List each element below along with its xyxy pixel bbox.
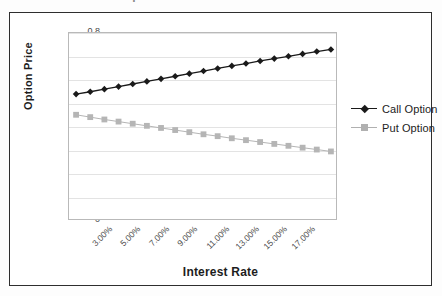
legend-item[interactable]: Call Option [351, 99, 438, 118]
x-axis-tick-label: 9.00% [175, 224, 199, 248]
y-axis-title: Option Price [22, 6, 34, 146]
series-put-option [73, 112, 334, 154]
chart-title-clipped: Option Prices versus Interest Rate [0, 0, 442, 11]
series-call-option [73, 46, 334, 97]
x-axis-tick-label: 5.00% [118, 224, 142, 248]
diamond-marker-icon [351, 103, 377, 114]
legend-item[interactable]: Put Option [351, 118, 438, 137]
data-series-layer [69, 33, 338, 221]
legend-item-label: Put Option [382, 122, 435, 134]
x-axis-tick-label: 13.00% [233, 224, 260, 251]
x-axis-tick-label: 15.00% [261, 224, 288, 251]
chart-legend: Call OptionPut Option [351, 99, 438, 137]
x-axis-tick-label: 11.00% [205, 224, 232, 251]
x-axis-tick-label: 3.00% [90, 224, 114, 248]
legend-item-label: Call Option [382, 103, 438, 115]
plot-area [68, 32, 337, 220]
chart-area: Option Price 0.80.70.60.50.40.30.20.10 3… [10, 13, 431, 285]
x-axis-title: Interest Rate [10, 265, 431, 279]
chart-frame: Option Price 0.80.70.60.50.40.30.20.10 3… [9, 12, 432, 286]
x-axis-tick-label: 7.00% [147, 224, 171, 248]
x-axis-tick-label: 17.00% [290, 224, 317, 251]
square-marker-icon [351, 122, 377, 133]
